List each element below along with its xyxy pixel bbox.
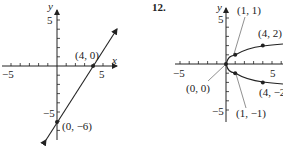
left-graph: y x −5 5 5 −5 (4, 0) (0, −6) [2,0,117,140]
point-label-4-2: (4, 2) [258,27,282,40]
y-tick-label-5: 5 [218,13,224,25]
point-1-neg1 [233,71,237,75]
y-tick-label-neg5: −5 [43,107,55,119]
point-label-0-neg6: (0, −6) [62,120,92,133]
right-graph: 12. y −5 5 5 −5 ( [152,1,283,122]
y-axis-label: y [47,0,53,12]
x-tick-label-neg5: −5 [2,68,14,80]
point-4-0 [91,64,95,68]
x-tick-label-5: 5 [99,68,105,80]
leader-0-0 [208,65,225,81]
graphs-figure: y x −5 5 5 −5 (4, 0) (0, −6) 12. [0,0,283,147]
point-1-1 [233,53,237,57]
y-tick-label-5: 5 [47,14,53,26]
point-label-4-neg2: (4, −2 [259,86,283,99]
y-axis-label: y [216,1,222,13]
point-label-1-1: (1, 1) [237,4,261,17]
point-0-neg6 [55,120,59,124]
leader-1-neg1 [236,74,246,108]
point-label-0-0: (0, 0) [186,82,210,95]
problem-number: 12. [152,1,166,13]
point-label-1-neg1: (1, −1) [236,107,266,120]
x-tick-label-neg5: −5 [173,67,185,79]
point-label-4-0: (4, 0) [75,49,99,62]
point-4-2 [261,44,265,48]
y-tick-label-neg5: −5 [212,105,224,117]
leader-1-1 [234,17,245,54]
x-tick-label-5: 5 [270,67,276,79]
point-4-neg2 [261,80,265,84]
x-axis-label: x [111,54,117,66]
